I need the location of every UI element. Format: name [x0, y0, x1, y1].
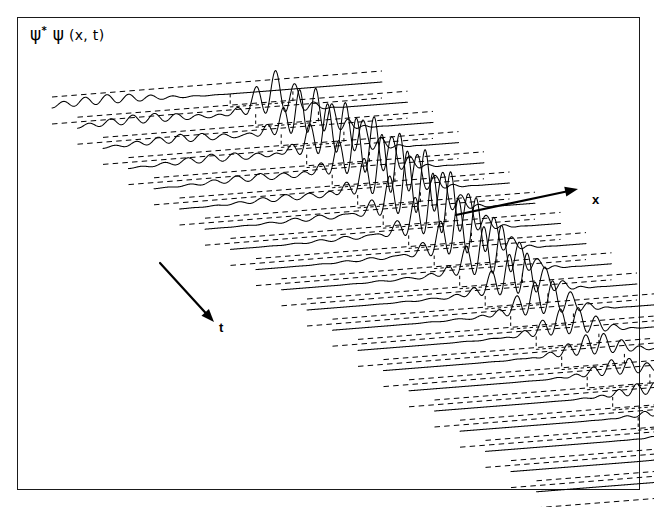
x-axis-arrow-icon — [456, 187, 578, 215]
t-axis-arrow-icon — [160, 263, 214, 322]
t-axis-label: t — [219, 320, 223, 335]
x-axis-arrow-icon-shaft — [456, 192, 565, 215]
t-axis-arrow-icon-shaft — [160, 263, 205, 312]
figure-root: ψ* ψ (x, t) x t — [0, 0, 654, 507]
x-axis-arrow-icon-head — [564, 187, 578, 197]
x-axis-label: x — [592, 192, 599, 207]
axis-arrow-layer — [0, 0, 654, 507]
